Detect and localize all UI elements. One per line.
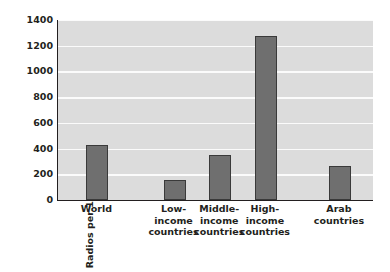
y-axis-tick-labels: 0200400600800100012001400 bbox=[17, 0, 53, 248]
bar bbox=[164, 180, 186, 200]
y-axis-tick-label: 800 bbox=[21, 92, 53, 102]
bar bbox=[329, 166, 351, 200]
y-axis-tick-label: 1200 bbox=[21, 41, 53, 51]
x-axis-tick-labels: WorldLow- income countriesMiddle- income… bbox=[57, 203, 372, 248]
gridline bbox=[58, 20, 373, 21]
y-axis-tick-label: 200 bbox=[21, 170, 53, 180]
y-axis-tick-label: 0 bbox=[21, 195, 53, 205]
gridline bbox=[58, 46, 373, 47]
y-axis-tick-label: 1000 bbox=[21, 67, 53, 77]
gridline bbox=[58, 123, 373, 124]
gridline bbox=[58, 97, 373, 98]
y-axis-tick-label: 1400 bbox=[21, 15, 53, 25]
bar bbox=[209, 155, 231, 200]
x-axis-tick-label: Arab countries bbox=[295, 203, 383, 226]
gridline bbox=[58, 71, 373, 72]
x-axis-tick-label: World bbox=[52, 203, 140, 215]
y-axis-tick-label: 400 bbox=[21, 144, 53, 154]
bar bbox=[255, 36, 277, 200]
y-axis-tick-label: 600 bbox=[21, 118, 53, 128]
plot-area bbox=[57, 20, 373, 201]
bar bbox=[86, 145, 108, 200]
